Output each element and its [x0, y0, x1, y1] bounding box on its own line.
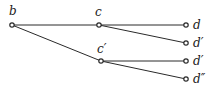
label-d-prime-2: d′: [193, 55, 203, 67]
node-c: [97, 23, 101, 27]
edge-c-prime-d-double-prime: [101, 61, 186, 79]
node-d-prime-2: [184, 59, 188, 63]
node-d-prime-1: [184, 41, 188, 45]
node-c-prime: [99, 59, 103, 63]
label-d-double-prime: d″: [193, 73, 205, 85]
edge-b-c-prime: [12, 25, 101, 61]
label-d-prime-1: d′: [193, 37, 203, 49]
label-c-prime: c′: [97, 43, 106, 55]
node-d-double-prime: [184, 77, 188, 81]
label-c: c: [95, 6, 102, 18]
node-b: [10, 23, 14, 27]
label-b: b: [9, 5, 17, 17]
node-d: [184, 23, 188, 27]
label-d: d: [193, 19, 201, 31]
edge-c-d-prime: [99, 25, 186, 43]
